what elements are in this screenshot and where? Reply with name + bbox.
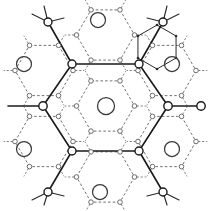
overlay-hexagon-dot (156, 24, 159, 27)
dashed-lattice-node (89, 150, 94, 155)
dashed-lattice-node (56, 93, 61, 98)
hexagon-vertex-node (135, 60, 143, 68)
dashed-lattice-node (179, 93, 184, 98)
dashed-lattice-node (179, 43, 184, 48)
dashed-lattice-node (194, 68, 199, 73)
lattice-figure (0, 0, 211, 211)
dashed-lattice-node (89, 58, 94, 63)
dashed-lattice-node (118, 150, 123, 155)
dashed-lattice-node (89, 200, 94, 205)
dashed-lattice-node (56, 114, 61, 119)
dashed-lattice-node (74, 104, 79, 109)
dashed-lattice-node (56, 164, 61, 169)
dashed-lattice-node (150, 93, 155, 98)
dashed-lattice-node (136, 139, 141, 144)
dashed-lattice-node (132, 175, 137, 180)
lattice-diagram-svg (0, 0, 211, 211)
dashed-lattice-node (89, 79, 94, 84)
dashed-lattice-node (13, 68, 18, 73)
terminal-vertex-node (197, 102, 205, 110)
dashed-lattice-node (150, 114, 155, 119)
dashed-lattice-node (89, 129, 94, 134)
overlay-hexagon-dot (137, 57, 140, 60)
dashed-lattice-node (13, 139, 18, 144)
dashed-lattice-node (118, 129, 123, 134)
dashed-lattice-node (74, 175, 79, 180)
dashed-lattice-node (27, 43, 32, 48)
terminal-vertex-node (44, 188, 52, 196)
dashed-lattice-node (27, 114, 32, 119)
terminal-vertex-node (44, 18, 52, 26)
overlay-hexagon-dot (156, 68, 159, 71)
dashed-lattice-node (71, 68, 76, 73)
dashed-lattice-node (136, 68, 141, 73)
dashed-lattice-node (56, 43, 61, 48)
dashed-lattice-node (27, 164, 32, 169)
hexagon-vertex-node (164, 102, 172, 110)
terminal-vertex-node (159, 188, 167, 196)
hexagon-vertex-node (68, 60, 76, 68)
dashed-lattice-node (118, 8, 123, 13)
dashed-lattice-node (179, 164, 184, 169)
terminal-vertex-node (159, 18, 167, 26)
dashed-lattice-node (118, 58, 123, 63)
dashed-lattice-node (132, 33, 137, 38)
dashed-lattice-node (150, 164, 155, 169)
dashed-lattice-node (118, 79, 123, 84)
dashed-lattice-node (89, 8, 94, 13)
dashed-lattice-node (71, 139, 76, 144)
dashed-lattice-node (118, 200, 123, 205)
dashed-lattice-node (179, 114, 184, 119)
dashed-lattice-node (194, 139, 199, 144)
hexagon-vertex-node (68, 147, 76, 155)
hexagon-vertex-node (135, 147, 143, 155)
hexagon-vertex-node (39, 102, 47, 110)
dashed-lattice-node (27, 93, 32, 98)
overlay-hexagon-dot (175, 35, 178, 38)
dashed-lattice-node (74, 33, 79, 38)
dashed-lattice-node (150, 43, 155, 48)
dashed-lattice-node (132, 104, 137, 109)
